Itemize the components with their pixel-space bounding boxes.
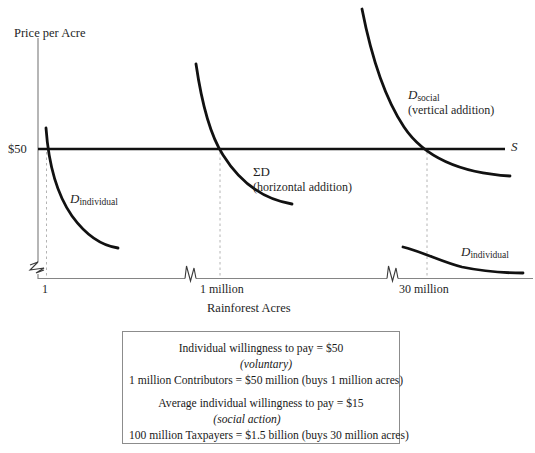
- explanation-line: Individual willingness to pay = $50: [129, 341, 393, 357]
- x-axis-break-mark-2: [387, 266, 398, 281]
- d-social-label-sub: social: [417, 93, 439, 103]
- d-individual-left-label-sub: individual: [79, 197, 118, 207]
- supply-curve-label: S: [511, 140, 518, 155]
- y-axis-title: Price per Acre: [14, 26, 86, 40]
- explanation-line: 100 million Taxpayers = $1.5 billion (bu…: [129, 428, 393, 444]
- x-tick-label-1: 1: [42, 283, 48, 296]
- d-social-label-main: D: [408, 87, 417, 102]
- explanation-line: (voluntary): [129, 357, 393, 373]
- explanation-line: (social action): [129, 412, 393, 428]
- d-individual-left-label-main: D: [70, 191, 79, 206]
- d-individual-left-curve: [46, 128, 118, 248]
- d-social-label: Dsocial (vertical addition): [408, 88, 494, 117]
- x-tick-label-30-million: 30 million: [399, 283, 449, 296]
- x-tick-label-1-million: 1 million: [200, 283, 244, 296]
- d-individual-left-label: Dindividual: [70, 192, 118, 207]
- explanation-group-voluntary: Individual willingness to pay = $50 (vol…: [129, 341, 393, 389]
- d-individual-right-label: Dindividual: [461, 245, 509, 260]
- x-axis-title: Rainforest Acres: [207, 301, 291, 315]
- sum-d-label-note: (horizontal addition): [253, 181, 352, 194]
- explanation-group-social-action: Average individual willingness to pay = …: [129, 396, 393, 444]
- d-social-label-note: (vertical addition): [408, 104, 494, 117]
- price-tick-label: $50: [8, 142, 27, 156]
- d-individual-right-label-sub: individual: [470, 250, 509, 260]
- d-individual-right-label-main: D: [461, 244, 470, 259]
- explanation-box: Individual willingness to pay = $50 (vol…: [122, 331, 400, 444]
- explanation-line: Average individual willingness to pay = …: [129, 396, 393, 412]
- y-axis-break-mark: [30, 262, 44, 273]
- explanation-line: 1 million Contributors = $50 million (bu…: [129, 373, 393, 389]
- economics-figure: Price per Acre $50 1 1 million 30 millio…: [0, 0, 535, 453]
- sum-d-label-main: ΣD: [253, 164, 270, 179]
- sum-d-label: ΣD (horizontal addition): [253, 165, 352, 194]
- x-axis-break-mark-1: [185, 266, 196, 281]
